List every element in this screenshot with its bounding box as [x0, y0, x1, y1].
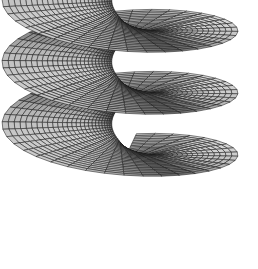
figure-root: Riemann surface of the complex logarithm… [0, 0, 258, 269]
riemann-surface-plot: Riemann surface of the complex logarithm… [0, 0, 258, 269]
surface-mesh [2, 0, 238, 176]
